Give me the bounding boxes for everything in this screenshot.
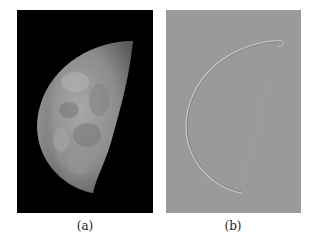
panel-b-caption: (b) [213, 219, 253, 233]
figure-panel-a-moon-photo [17, 10, 153, 213]
panel-a-caption: (a) [65, 219, 105, 233]
moon-image [17, 10, 153, 213]
edge-filtered-image [166, 10, 301, 213]
figure-panel-b-edge-filtered [166, 10, 301, 213]
